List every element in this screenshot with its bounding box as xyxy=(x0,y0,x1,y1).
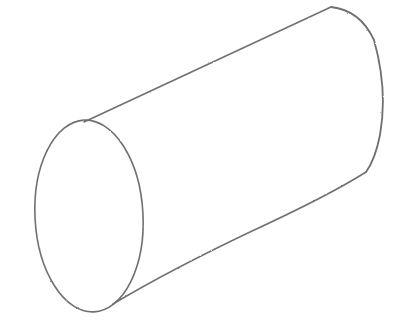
cylinder-back-edge xyxy=(331,7,383,172)
cylinder-bottom-edge xyxy=(113,172,366,304)
cylinder-sketch xyxy=(0,0,398,336)
cylinder-front-face xyxy=(30,117,148,314)
cylinder-top-edge xyxy=(84,7,331,122)
